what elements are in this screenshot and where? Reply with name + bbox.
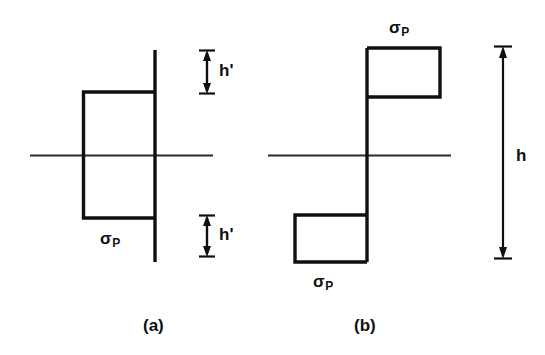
sigma-glyph-a: σ [100,229,112,248]
stress-label-sigma-p-b-bottom: σP [313,273,333,292]
arrowhead-up-h-prime-upper [203,50,211,61]
stress-label-sigma-p-a: σP [100,230,120,249]
dimension-label-h-prime-upper: h' [219,62,233,79]
stress-label-sigma-p-b-top: σP [389,19,409,38]
arrowhead-down-h-prime-upper [203,83,211,94]
sigma-glyph-b-top: σ [389,18,401,37]
arrowhead-up-h-prime-lower [203,215,211,226]
caption-part-b: (b) [354,317,376,334]
stress-block-upper-b [367,48,440,97]
arrowhead-down-h-overall [499,247,507,259]
stress-block-lower-b [295,215,367,262]
sigma-glyph-b-bottom: σ [313,272,325,291]
arrowhead-up-h-overall [499,46,507,58]
diagram-b-group [268,48,451,262]
dimension-h-prime-upper [199,50,215,94]
dimension-label-h-prime-lower: h' [219,226,233,243]
sigma-subscript-a: P [112,236,120,250]
caption-part-a: (a) [143,317,164,334]
sigma-subscript-b-top: P [401,25,409,39]
dimension-h-prime-lower [199,215,215,257]
dimension-label-h-overall: h [516,147,526,164]
sigma-subscript-b-bottom: P [325,279,333,293]
diagram-a-group [30,50,213,262]
diagram-svg [0,0,545,355]
arrowhead-down-h-prime-lower [203,246,211,257]
dimension-h-overall [494,46,512,259]
figure-canvas: σP h' h' σP σP h (a) (b) [0,0,545,355]
